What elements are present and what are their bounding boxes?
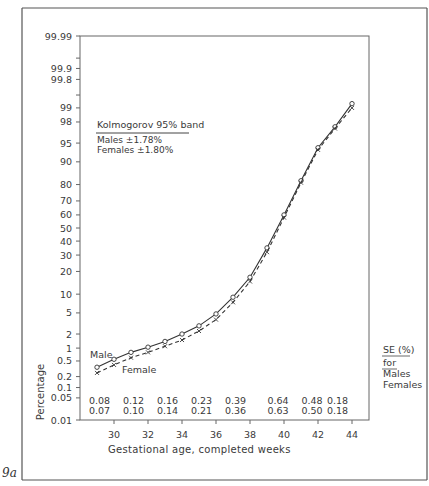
y-tick-label: 99.99 [45, 31, 72, 42]
male-marker-circle [214, 312, 218, 316]
y-tick-label: 1 [66, 343, 72, 354]
male-marker-circle [180, 332, 184, 336]
se-for: for [383, 357, 396, 368]
male-curve-label: Male [90, 349, 113, 360]
female-curve-label: Female [122, 364, 157, 375]
y-tick-label: 40 [60, 236, 72, 247]
se-female-value: 0.63 [268, 405, 289, 416]
male-marker-circle [350, 101, 354, 105]
y-tick-label: 10 [60, 289, 72, 300]
se-female-value: 0.10 [123, 405, 144, 416]
male-marker-circle [129, 350, 133, 354]
male-marker-circle [197, 324, 201, 328]
female-marker-x [180, 338, 184, 342]
females-band-value: Females ±1.80% [97, 145, 174, 155]
x-tick-label: 44 [346, 429, 358, 440]
se-female-value: 0.07 [89, 405, 110, 416]
female-marker-x [265, 250, 269, 254]
y-tick-label: 95 [60, 138, 72, 149]
se-female-value: 0.14 [157, 405, 178, 416]
female-marker-x [231, 300, 235, 304]
y-axis-title: Percentage [35, 364, 46, 420]
se-females-label: Females [383, 379, 422, 390]
x-tick-label: 32 [142, 429, 154, 440]
male-marker-circle [95, 365, 99, 369]
x-axis-title: Gestational age, completed weeks [108, 444, 291, 455]
y-tick-label: 5 [66, 307, 72, 318]
y-tick-label: 90 [60, 156, 72, 167]
y-tick-label: 0.5 [57, 355, 72, 366]
se-males-label: Males [383, 368, 411, 379]
y-tick-label: 70 [60, 195, 72, 206]
y-tick-label: 20 [60, 266, 72, 277]
se-female-value: 0.50 [302, 405, 323, 416]
x-tick-label: 34 [176, 429, 188, 440]
kolmogorov-band-title: Kolmogorov 95% band [97, 119, 204, 130]
y-tick-label: 99 [60, 102, 72, 113]
y-tick-label: 0.01 [51, 415, 72, 426]
y-tick-label: 0.2 [57, 371, 72, 382]
x-tick-label: 40 [278, 429, 290, 440]
female-marker-x [350, 106, 354, 110]
figure-label: 9a [2, 466, 17, 480]
y-tick-label: 0.1 [57, 382, 72, 393]
female-marker-x [95, 371, 99, 375]
se-female-value: 0.18 [327, 405, 348, 416]
x-tick-label: 42 [312, 429, 324, 440]
male-marker-circle [163, 339, 167, 343]
y-tick-label: 80 [60, 179, 72, 190]
female-marker-x [197, 329, 201, 333]
se-title: SE (%) [383, 344, 415, 355]
female-marker-x [112, 363, 116, 367]
x-tick-label: 38 [244, 429, 256, 440]
y-tick-label: 99.8 [51, 74, 72, 85]
plot-frame [80, 36, 369, 420]
y-tick-label: 2 [66, 329, 72, 340]
se-female-value: 0.36 [225, 405, 246, 416]
female-marker-x [214, 318, 218, 322]
y-tick-label: 0.05 [51, 392, 72, 403]
se-female-value: 0.21 [191, 405, 212, 416]
males-band-value: Males ±1.78% [97, 135, 162, 145]
y-tick-label: 60 [60, 209, 72, 220]
x-tick-label: 30 [108, 429, 120, 440]
y-tick-label: 50 [60, 223, 72, 234]
y-tick-label: 99.9 [51, 63, 72, 74]
female-marker-x [248, 280, 252, 284]
probability-chart: 0.010.050.10.20.512510203040506070809095… [0, 0, 429, 486]
male-marker-circle [146, 345, 150, 349]
x-tick-label: 36 [210, 429, 222, 440]
y-tick-label: 98 [60, 116, 72, 127]
y-tick-label: 30 [60, 250, 72, 261]
male-marker-circle [231, 295, 235, 299]
